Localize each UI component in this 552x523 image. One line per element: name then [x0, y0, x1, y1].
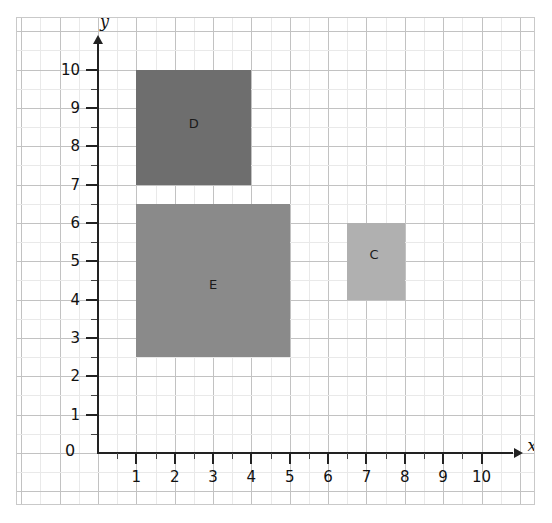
x-tick-label: 7: [362, 468, 372, 486]
y-tick-label: 7: [70, 176, 80, 194]
y-tick-label: 10: [61, 61, 80, 79]
x-tick-minor: [156, 453, 157, 459]
x-tick-label: 10: [472, 468, 491, 486]
y-tick-label: 8: [70, 137, 80, 155]
y-axis-arrow-icon: [93, 35, 103, 44]
y-tick-minor: [91, 280, 97, 281]
x-tick-major: [404, 453, 406, 464]
y-tick-label: 9: [70, 99, 80, 117]
x-axis-arrow-icon: [514, 448, 523, 458]
y-tick-major: [86, 375, 97, 377]
y-tick-minor: [91, 89, 97, 90]
x-tick-label: 8: [400, 468, 410, 486]
y-tick-label: 1: [70, 406, 80, 424]
x-tick-label: 9: [438, 468, 448, 486]
x-axis-name: x: [528, 436, 536, 455]
y-tick-major: [86, 299, 97, 301]
x-tick-label: 3: [208, 468, 218, 486]
x-tick-major: [135, 453, 137, 464]
y-tick-label: 5: [70, 252, 80, 270]
x-tick-minor: [194, 453, 195, 459]
x-tick-major: [365, 453, 367, 464]
x-tick-label: 6: [323, 468, 333, 486]
x-tick-major: [174, 453, 176, 464]
x-tick-minor: [462, 453, 463, 459]
y-tick-minor: [91, 357, 97, 358]
y-tick-major: [86, 414, 97, 416]
y-axis-name: y: [100, 17, 109, 31]
x-tick-major: [481, 453, 483, 464]
x-tick-label: 1: [132, 468, 142, 486]
grid-frame: DEC xy12345678910123456789100: [16, 17, 535, 505]
x-tick-label: 2: [170, 468, 180, 486]
x-tick-label: 5: [285, 468, 295, 486]
y-tick-major: [86, 69, 97, 71]
x-tick-major: [289, 453, 291, 464]
y-tick-label: 6: [70, 214, 80, 232]
y-tick-major: [86, 337, 97, 339]
x-axis-line: [97, 452, 513, 454]
x-tick-minor: [309, 453, 310, 459]
x-tick-minor: [347, 453, 348, 459]
y-tick-minor: [91, 434, 97, 435]
grid-line-horizontal: [17, 472, 534, 473]
y-tick-major: [86, 145, 97, 147]
grid-line-horizontal: [17, 50, 534, 51]
x-tick-major: [327, 453, 329, 464]
x-tick-major: [250, 453, 252, 464]
y-tick-minor: [91, 319, 97, 320]
grid-line-horizontal: [17, 491, 534, 492]
y-axis-line: [97, 44, 99, 454]
shape-label-c: C: [370, 246, 379, 261]
x-tick-major: [212, 453, 214, 464]
shape-label-e: E: [209, 277, 217, 292]
shape-label-d: D: [189, 116, 199, 131]
x-tick-minor: [232, 453, 233, 459]
y-tick-major: [86, 222, 97, 224]
y-tick-minor: [91, 395, 97, 396]
x-tick-minor: [424, 453, 425, 459]
x-tick-minor: [386, 453, 387, 459]
y-tick-major: [86, 260, 97, 262]
grid-line-horizontal: [17, 31, 534, 32]
y-tick-minor: [91, 127, 97, 128]
y-tick-minor: [91, 204, 97, 205]
y-tick-label: 2: [70, 367, 80, 385]
y-tick-minor: [91, 165, 97, 166]
y-tick-label: 3: [70, 329, 80, 347]
figure-canvas: DEC xy12345678910123456789100: [0, 0, 552, 523]
x-tick-minor: [117, 453, 118, 459]
x-tick-minor: [271, 453, 272, 459]
y-tick-minor: [91, 242, 97, 243]
shape-rect-c: [347, 223, 405, 300]
y-tick-label: 4: [70, 291, 80, 309]
x-tick-label: 4: [247, 468, 257, 486]
x-tick-major: [442, 453, 444, 464]
y-tick-major: [86, 107, 97, 109]
y-tick-major: [86, 184, 97, 186]
origin-label: 0: [65, 441, 75, 460]
